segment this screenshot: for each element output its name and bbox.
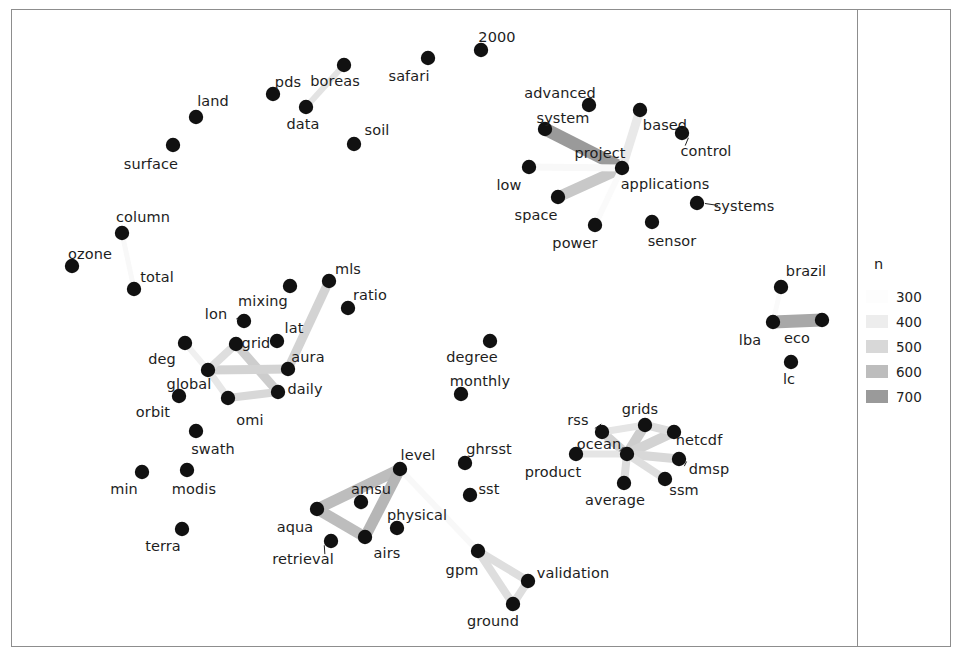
graph-node[interactable]: [774, 280, 788, 294]
graph-node[interactable]: [690, 196, 704, 210]
graph-node[interactable]: [784, 355, 798, 369]
legend-row: 700: [866, 384, 952, 409]
graph-node[interactable]: [65, 259, 79, 273]
legend-swatch: [866, 315, 888, 328]
graph-node[interactable]: [189, 424, 203, 438]
graph-edge: [545, 129, 622, 168]
graph-node[interactable]: [582, 98, 596, 112]
legend-row: 300: [866, 284, 952, 309]
graph-edge: [400, 469, 478, 551]
graph-edge: [208, 369, 288, 370]
graph-node[interactable]: [672, 452, 686, 466]
graph-node[interactable]: [551, 190, 565, 204]
graph-node[interactable]: [189, 110, 203, 124]
network-canvas: [0, 0, 964, 661]
graph-node[interactable]: [221, 391, 235, 405]
graph-node[interactable]: [483, 334, 497, 348]
graph-node[interactable]: [638, 418, 652, 432]
graph-node[interactable]: [178, 336, 192, 350]
graph-node[interactable]: [658, 472, 672, 486]
graph-node[interactable]: [645, 215, 659, 229]
graph-node[interactable]: [471, 544, 485, 558]
graph-edge: [288, 281, 329, 369]
graph-node[interactable]: [633, 103, 647, 117]
graph-node[interactable]: [454, 387, 468, 401]
graph-node[interactable]: [166, 138, 180, 152]
graph-node[interactable]: [266, 87, 280, 101]
graph-node[interactable]: [180, 463, 194, 477]
graph-node[interactable]: [229, 337, 243, 351]
legend-title: n: [874, 256, 952, 272]
graph-node[interactable]: [115, 226, 129, 240]
graph-node[interactable]: [354, 495, 368, 509]
graph-node[interactable]: [506, 597, 520, 611]
graph-node[interactable]: [766, 315, 780, 329]
graph-node[interactable]: [390, 521, 404, 535]
graph-node[interactable]: [615, 161, 629, 175]
label-leader-line: [324, 545, 325, 554]
legend-swatch: [866, 290, 888, 303]
graph-node[interactable]: [617, 476, 631, 490]
graph-node[interactable]: [172, 389, 186, 403]
legend-value: 500: [896, 339, 922, 355]
legend-swatch: [866, 390, 888, 403]
legend-value: 600: [896, 364, 922, 380]
legend: n 300400500600700: [866, 256, 952, 409]
graph-node[interactable]: [393, 462, 407, 476]
graph-node[interactable]: [310, 502, 324, 516]
legend-value: 700: [896, 389, 922, 405]
node-layer: [65, 43, 829, 611]
graph-node[interactable]: [815, 313, 829, 327]
graph-node[interactable]: [201, 363, 215, 377]
graph-edge: [317, 509, 365, 537]
legend-row: 500: [866, 334, 952, 359]
network-graph-figure: 2000safaripdsboreasdatasoillandsurfacead…: [0, 0, 964, 661]
graph-node[interactable]: [127, 282, 141, 296]
graph-node[interactable]: [175, 522, 189, 536]
graph-node[interactable]: [237, 314, 251, 328]
graph-edge: [529, 167, 622, 168]
legend-value: 400: [896, 314, 922, 330]
graph-node[interactable]: [667, 425, 681, 439]
legend-value: 300: [896, 289, 922, 305]
graph-node[interactable]: [341, 301, 355, 315]
graph-node[interactable]: [538, 122, 552, 136]
graph-node[interactable]: [347, 137, 361, 151]
graph-node[interactable]: [474, 43, 488, 57]
graph-node[interactable]: [588, 218, 602, 232]
graph-node[interactable]: [299, 100, 313, 114]
graph-edge: [773, 320, 822, 322]
graph-node[interactable]: [324, 534, 338, 548]
graph-node[interactable]: [620, 447, 634, 461]
graph-node[interactable]: [271, 385, 285, 399]
graph-node[interactable]: [337, 58, 351, 72]
graph-node[interactable]: [569, 447, 583, 461]
leader-line-layer: [236, 138, 718, 554]
graph-node[interactable]: [522, 160, 536, 174]
graph-node[interactable]: [358, 530, 372, 544]
graph-node[interactable]: [135, 465, 149, 479]
graph-node[interactable]: [281, 362, 295, 376]
graph-node[interactable]: [463, 488, 477, 502]
graph-node[interactable]: [322, 274, 336, 288]
graph-edge: [228, 392, 278, 398]
graph-node[interactable]: [521, 574, 535, 588]
label-leader-line: [705, 204, 718, 206]
graph-node[interactable]: [595, 425, 609, 439]
graph-edge: [306, 65, 344, 107]
edge-layer: [122, 65, 822, 604]
legend-rows: 300400500600700: [866, 284, 952, 409]
graph-node[interactable]: [283, 279, 297, 293]
graph-edge: [622, 110, 640, 168]
legend-row: 400: [866, 309, 952, 334]
legend-swatch: [866, 340, 888, 353]
graph-node[interactable]: [458, 456, 472, 470]
legend-swatch: [866, 365, 888, 378]
legend-row: 600: [866, 359, 952, 384]
graph-node[interactable]: [675, 126, 689, 140]
graph-node[interactable]: [270, 334, 284, 348]
graph-node[interactable]: [421, 51, 435, 65]
graph-edge: [122, 233, 134, 289]
